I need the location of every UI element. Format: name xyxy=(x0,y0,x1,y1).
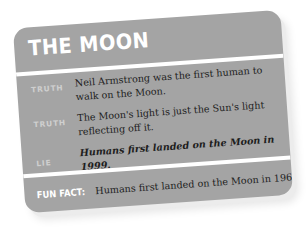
fun-fact-text: Humans first landed on the Moon in 1969. xyxy=(95,171,293,196)
statement-label: TRUTH xyxy=(17,76,76,95)
statement-label: LIE xyxy=(21,146,80,169)
fun-fact-label: FUN FACT: xyxy=(24,186,85,201)
card-title: THE MOON xyxy=(27,28,150,60)
stage: THE MOON TRUTH Neil Armstrong was the fi… xyxy=(0,0,308,227)
statement-label: TRUTH xyxy=(19,111,78,130)
trivia-card: THE MOON TRUTH Neil Armstrong was the fi… xyxy=(13,10,293,213)
